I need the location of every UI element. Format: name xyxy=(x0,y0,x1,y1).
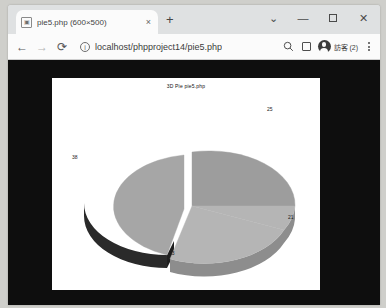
minimize-button[interactable]: — xyxy=(288,5,318,31)
search-icon[interactable] xyxy=(280,37,298,57)
pie-chart xyxy=(52,78,320,290)
maximize-icon xyxy=(329,14,337,22)
address-bar[interactable]: i localhost/phpproject14/pie5.php xyxy=(76,38,276,56)
profile-button[interactable]: 訪客 (2) xyxy=(316,39,363,54)
maximize-button[interactable] xyxy=(318,5,348,31)
close-window-button[interactable]: ✕ xyxy=(348,5,378,31)
url-text: localhost/phpproject14/pie5.php xyxy=(95,42,222,52)
reload-button[interactable]: ⟳ xyxy=(52,37,72,57)
new-tab-button[interactable]: + xyxy=(166,13,174,26)
browser-tab[interactable]: ▣ pie5.php (600×500) × xyxy=(16,10,158,34)
page-viewport: 3D Pie pie5.php xyxy=(8,60,380,305)
tab-close-icon[interactable]: × xyxy=(144,17,153,27)
forward-button[interactable]: → xyxy=(32,37,52,57)
slice-top-25 xyxy=(192,151,295,206)
profile-name: 訪客 (2) xyxy=(334,42,359,52)
tab-title: pie5.php (600×500) xyxy=(37,18,144,27)
slice-label-38: 38 xyxy=(72,154,78,160)
page-icon: ▣ xyxy=(21,17,32,28)
browser-toolbar: ← → ⟳ i localhost/phpproject14/pie5.php … xyxy=(8,34,380,60)
tab-strip: ▣ pie5.php (600×500) × + ⌄ — ✕ xyxy=(8,5,380,34)
slice-label-25: 25 xyxy=(267,106,273,112)
avatar xyxy=(318,40,331,53)
site-info-icon[interactable]: i xyxy=(80,42,90,52)
slice-label-21: 21 xyxy=(288,214,294,220)
browser-window: ▣ pie5.php (600×500) × + ⌄ — ✕ ← → ⟳ i l… xyxy=(8,5,380,305)
screenshot-root: ▣ pie5.php (600×500) × + ⌄ — ✕ ← → ⟳ i l… xyxy=(0,0,386,308)
chart-canvas: 3D Pie pie5.php xyxy=(52,78,320,290)
split-screen-icon[interactable] xyxy=(298,37,316,57)
window-controls: ⌄ — ✕ xyxy=(258,5,378,31)
slice-label-13: 13 xyxy=(169,250,175,256)
slice-top-38 xyxy=(114,155,184,255)
browser-menu-icon[interactable] xyxy=(362,37,376,57)
tab-search-icon[interactable]: ⌄ xyxy=(258,5,288,31)
back-button[interactable]: ← xyxy=(12,37,32,57)
